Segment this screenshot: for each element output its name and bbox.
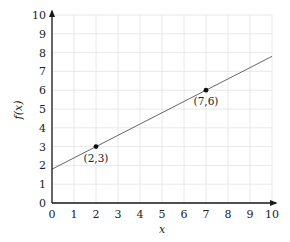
y-axis-label: f(x) bbox=[12, 101, 25, 121]
y-tick-label: 7 bbox=[39, 65, 46, 78]
data-point-marker bbox=[204, 88, 209, 93]
y-tick-label: 3 bbox=[39, 141, 46, 154]
y-tick-label: 2 bbox=[39, 159, 46, 172]
y-tick-label: 6 bbox=[39, 84, 46, 97]
x-tick-label: 4 bbox=[137, 208, 144, 221]
y-tick-label: 4 bbox=[39, 122, 46, 135]
x-tick-label: 8 bbox=[225, 208, 232, 221]
y-tick-label: 5 bbox=[39, 103, 46, 116]
x-tick-label: 0 bbox=[49, 208, 56, 221]
data-point-marker bbox=[94, 144, 99, 149]
data-point-label: (2,3) bbox=[84, 152, 109, 164]
y-tick-label: 9 bbox=[39, 28, 46, 41]
line-chart: 012345678910 012345678910 (2,3)(7,6) x f… bbox=[0, 0, 290, 242]
y-tick-label: 8 bbox=[39, 47, 46, 60]
y-tick-label: 1 bbox=[39, 178, 46, 191]
data-point-label: (7,6) bbox=[194, 95, 219, 107]
x-tick-label: 7 bbox=[203, 208, 210, 221]
x-axis-label: x bbox=[159, 223, 166, 236]
x-axis-tick-labels: 012345678910 bbox=[49, 208, 280, 221]
data-points: (2,3)(7,6) bbox=[84, 88, 219, 164]
x-tick-label: 1 bbox=[71, 208, 78, 221]
x-tick-label: 3 bbox=[115, 208, 122, 221]
axes bbox=[52, 11, 276, 203]
x-tick-label: 5 bbox=[159, 208, 166, 221]
x-tick-label: 6 bbox=[181, 208, 188, 221]
y-tick-label: 0 bbox=[39, 197, 46, 210]
y-tick-label: 10 bbox=[32, 9, 46, 22]
x-tick-label: 9 bbox=[247, 208, 254, 221]
y-axis-tick-labels: 012345678910 bbox=[32, 9, 46, 210]
grid-lines bbox=[52, 15, 272, 203]
x-tick-label: 10 bbox=[265, 208, 279, 221]
x-tick-label: 2 bbox=[93, 208, 100, 221]
